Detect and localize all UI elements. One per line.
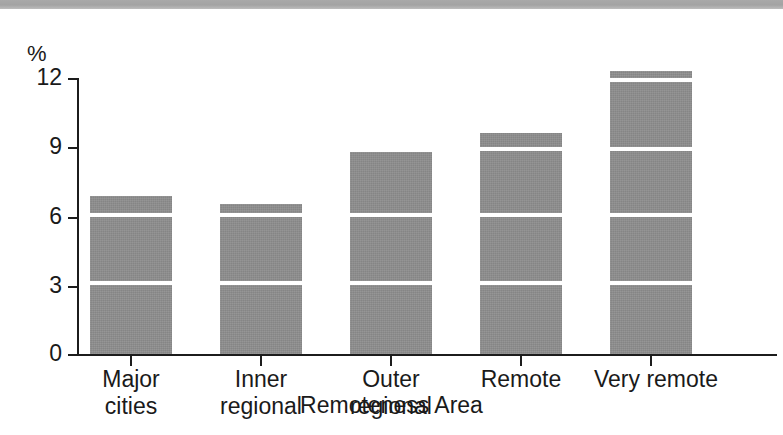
bar-divider-6 (90, 213, 172, 217)
bar-segment-3-6 (480, 217, 562, 281)
bar-segment-0-3 (90, 285, 172, 354)
bar-segment-3-6 (350, 217, 432, 281)
y-tick-mark-0 (68, 354, 77, 356)
bar-segment-3-6 (90, 217, 172, 281)
category-label-line1: Major (102, 366, 160, 392)
x-tick-mark-5 (650, 356, 652, 366)
y-tick-label-3: 3 (49, 274, 62, 297)
bar-segment-9-top (480, 133, 562, 147)
bar-inner-regional[interactable] (220, 204, 302, 354)
bar-segment-0-3 (220, 285, 302, 354)
bar-divider-3 (90, 281, 172, 285)
bar-segment-6-top (90, 196, 172, 213)
bar-remote[interactable] (480, 133, 562, 354)
bar-divider-3 (480, 281, 562, 285)
x-tick-mark-4 (520, 356, 522, 366)
bar-divider-6 (220, 213, 302, 217)
bar-outer-regional[interactable] (350, 152, 432, 354)
bar-segment-6-top (220, 204, 302, 213)
y-tick-mark-6 (68, 217, 77, 219)
bar-divider-3 (220, 281, 302, 285)
bar-segment-0-3 (350, 285, 432, 354)
bar-segment-3-6 (610, 217, 692, 281)
category-label-very-remote: Very remote (571, 366, 741, 393)
stacked-bar-chart: % 12 9 6 3 0 (0, 0, 783, 435)
bar-divider-6 (610, 213, 692, 217)
bar-segment-9-12 (610, 82, 692, 147)
bar-segment-6-9 (480, 151, 562, 213)
y-tick-mark-3 (68, 286, 77, 288)
bar-divider-9 (480, 147, 562, 151)
bar-segment-6-9 (610, 151, 692, 213)
x-tick-mark-1 (130, 356, 132, 366)
x-axis-title: Remoteness Area (0, 394, 783, 417)
bar-divider-12 (610, 78, 692, 82)
category-label-line1: Remote (481, 366, 562, 392)
bar-segment-3-6 (220, 217, 302, 281)
bar-segment-0-3 (610, 285, 692, 354)
bar-divider-9 (610, 147, 692, 151)
bar-divider-6 (350, 213, 432, 217)
category-label-line1: Inner (235, 366, 287, 392)
y-tick-mark-9 (68, 147, 77, 149)
category-label-line1: Very remote (594, 366, 718, 392)
y-axis-unit-label: % (27, 43, 47, 65)
category-label-line1: Outer (362, 366, 420, 392)
x-tick-mark-3 (390, 356, 392, 366)
bar-divider-6 (480, 213, 562, 217)
bar-divider-3 (610, 281, 692, 285)
bar-very-remote[interactable] (610, 71, 692, 354)
y-axis-line (77, 78, 79, 356)
y-tick-label-6: 6 (49, 205, 62, 228)
bar-major-cities[interactable] (90, 196, 172, 354)
y-tick-label-12: 12 (36, 66, 62, 89)
y-tick-label-9: 9 (49, 135, 62, 158)
bar-segment-0-3 (480, 285, 562, 354)
bar-segment-6-top (350, 152, 432, 213)
bar-segment-12-top (610, 71, 692, 78)
bar-divider-3 (350, 281, 432, 285)
y-tick-mark-12 (68, 78, 77, 80)
x-tick-mark-2 (260, 356, 262, 366)
y-tick-label-0: 0 (49, 342, 62, 365)
x-axis-line (77, 354, 777, 356)
